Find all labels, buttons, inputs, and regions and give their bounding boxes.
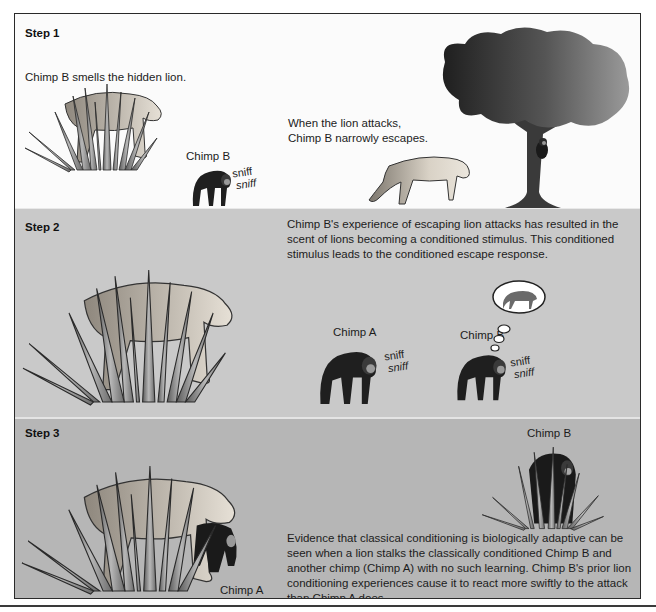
chimp-a-label: Chimp A [220,584,263,596]
sniff-text: sniffsniff [231,165,256,192]
step-3-label: Step 3 [25,427,60,439]
chimp-b-illustration [455,349,511,403]
chimp-b-hiding-in-grass-illustration [477,443,607,531]
bottom-rule [0,605,656,607]
step-3-caption: Evidence that classical conditioning is … [287,531,637,599]
chimp-b-label: Chimp B [186,150,230,162]
lion-in-grass-illustration [23,267,253,405]
step-2-panel: Step 2 Chimp B's experience of escaping … [15,208,640,417]
step-2-label: Step 2 [25,221,60,233]
step-1-panel: Step 1 Chimp B smells the hidden lion. C… [15,14,640,208]
lion-catching-chimp-a-illustration [21,463,257,591]
chimp-b-label: Chimp B [527,427,571,439]
lion-in-grass-illustration [25,82,175,172]
chimp-b-sniff-text: sniffsniff [509,354,534,381]
chimp-a-label: Chimp A [333,326,376,338]
step-3-panel: Step 3 Chimp A Chimp B [15,417,640,599]
tree-illustration [435,22,635,210]
chimp-a-sniff-text: sniffsniff [383,348,408,375]
figure-frame: Step 1 Chimp B smells the hidden lion. C… [14,13,641,599]
chimp-a-illustration [317,345,383,407]
step-2-caption: Chimp B's experience of escaping lion at… [287,217,632,262]
step-1-label: Step 1 [25,27,60,39]
chimp-b-illustration [191,166,235,208]
step-1-attack-caption: When the lion attacks, Chimp B narrowly … [288,116,428,146]
